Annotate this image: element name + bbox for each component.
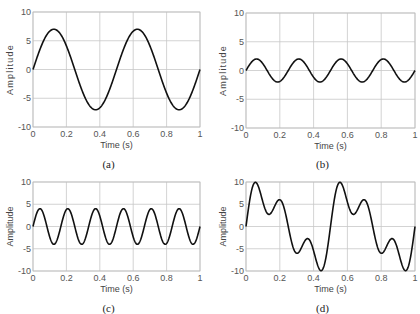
y-axis-label: Amplitude <box>218 45 228 96</box>
x-tick-label: 0 <box>30 129 35 139</box>
y-tick-label: 5 <box>239 199 244 209</box>
y-tick-label: 10 <box>234 177 244 187</box>
y-tick-label: 5 <box>239 37 244 47</box>
y-tick-label: -5 <box>23 93 31 103</box>
x-axis-label: Time (s) <box>100 284 133 294</box>
x-tick-label: 0.4 <box>307 273 320 283</box>
x-tick-label: 0.4 <box>94 129 107 139</box>
x-tick-label: 1 <box>412 130 417 140</box>
y-tick-label: 5 <box>26 36 31 46</box>
y-tick-label: 0 <box>26 65 31 75</box>
x-tick-label: 0.8 <box>375 273 388 283</box>
chart-panel-a: 00.20.40.60.811050-5-10Time (s)Amplitude… <box>5 7 203 171</box>
chart-panel-d: 00.20.40.60.811050-5-10Time (s)Amplitude… <box>218 177 418 314</box>
y-tick-label: -10 <box>231 123 244 133</box>
y-tick-label: -10 <box>231 266 244 276</box>
panel-caption: (a) <box>102 158 115 171</box>
y-axis-label: Amplitude <box>5 206 15 246</box>
x-tick-label: 0.2 <box>274 130 287 140</box>
y-tick-label: -5 <box>23 244 31 254</box>
x-tick-label: 0 <box>243 130 248 140</box>
figure: 00.20.40.60.811050-5-10Time (s)Amplitude… <box>0 0 420 314</box>
x-tick-label: 0.2 <box>60 129 73 139</box>
y-tick-label: 10 <box>21 177 31 187</box>
x-tick-label: 0.4 <box>94 273 107 283</box>
x-tick-label: 0.2 <box>60 273 73 283</box>
x-axis-label: Time (s) <box>314 284 347 294</box>
x-tick-label: 1 <box>197 273 202 283</box>
chart-panel-c: 00.20.40.60.811050-5-10Time (s)Amplitude… <box>5 177 203 314</box>
y-tick-label: -5 <box>236 94 244 104</box>
y-tick-label: -10 <box>18 266 31 276</box>
x-tick-label: 0 <box>243 273 248 283</box>
y-axis-label: Amplitude <box>218 206 228 246</box>
y-tick-label: 0 <box>239 66 244 76</box>
x-tick-label: 0.8 <box>375 130 388 140</box>
y-tick-label: 10 <box>234 8 244 18</box>
x-tick-label: 0.8 <box>160 129 173 139</box>
panel-caption: (c) <box>102 302 115 314</box>
x-axis-label: Time (s) <box>100 140 133 150</box>
y-axis-label: Amplitude <box>5 44 15 95</box>
y-tick-label: 10 <box>21 7 31 17</box>
x-tick-label: 0.6 <box>127 129 140 139</box>
x-tick-label: 0.8 <box>160 273 173 283</box>
x-tick-label: 0.2 <box>274 273 287 283</box>
panel-caption: (d) <box>316 302 329 314</box>
x-axis-label: Time (s) <box>314 141 347 151</box>
y-tick-label: -5 <box>236 244 244 254</box>
y-tick-label: -10 <box>18 122 31 132</box>
x-tick-label: 0.6 <box>341 130 354 140</box>
x-tick-label: 0.4 <box>307 130 320 140</box>
y-tick-label: 0 <box>239 222 244 232</box>
panel-caption: (b) <box>316 158 329 171</box>
x-tick-label: 0 <box>30 273 35 283</box>
x-tick-label: 1 <box>412 273 417 283</box>
x-tick-label: 0.6 <box>341 273 354 283</box>
x-tick-label: 1 <box>197 129 202 139</box>
x-tick-label: 0.6 <box>127 273 140 283</box>
chart-panel-b: 00.20.40.60.811050-5-10Time (s)Amplitude… <box>218 8 418 171</box>
y-tick-label: 0 <box>26 222 31 232</box>
y-tick-label: 5 <box>26 199 31 209</box>
